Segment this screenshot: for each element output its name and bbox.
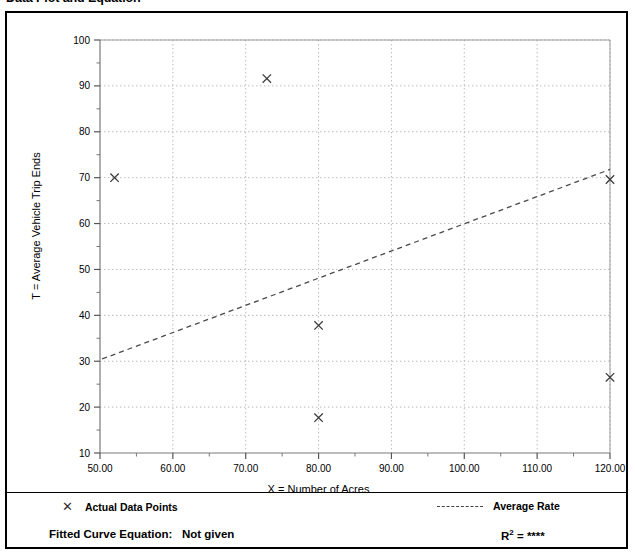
legend-item-average-rate: Average Rate xyxy=(437,500,560,512)
chart-card: 10203040506070809010050.0060.0070.0080.0… xyxy=(5,11,628,549)
fitted-curve-equation-value: Not given xyxy=(182,528,234,540)
fitted-curve-equation-label: Fitted Curve Equation: xyxy=(49,528,172,540)
svg-text:50: 50 xyxy=(79,264,91,275)
y-axis-title: T = Average Vehicle Trip Ends xyxy=(30,96,42,356)
r-squared-exponent: 2 xyxy=(509,528,513,537)
svg-text:70: 70 xyxy=(79,172,91,183)
svg-text:80.00: 80.00 xyxy=(306,463,331,474)
x-marker-icon: ✕ xyxy=(62,500,73,513)
svg-text:70.00: 70.00 xyxy=(233,463,258,474)
svg-text:30: 30 xyxy=(79,356,91,367)
data-point-marker xyxy=(110,173,118,181)
svg-text:100: 100 xyxy=(73,35,90,46)
footer-equation-row: Fitted Curve Equation: Not given R2 = **… xyxy=(7,528,626,552)
data-point-marker xyxy=(263,74,271,82)
r-squared-value: **** xyxy=(527,530,545,542)
scatter-plot-svg: 10203040506070809010050.0060.0070.0080.0… xyxy=(7,13,630,491)
svg-text:40: 40 xyxy=(79,310,91,321)
legend-item-data-points: ✕ Actual Data Points xyxy=(62,500,178,513)
svg-text:100.00: 100.00 xyxy=(449,463,480,474)
svg-text:20: 20 xyxy=(79,402,91,413)
plot-area: 10203040506070809010050.0060.0070.0080.0… xyxy=(7,13,630,491)
svg-text:120.00: 120.00 xyxy=(595,463,626,474)
r-squared-equals: = xyxy=(517,530,524,542)
svg-text:90.00: 90.00 xyxy=(379,463,404,474)
svg-text:60.00: 60.00 xyxy=(160,463,185,474)
svg-text:90: 90 xyxy=(79,80,91,91)
legend-label-data-points: Actual Data Points xyxy=(85,501,178,513)
svg-text:50.00: 50.00 xyxy=(87,463,112,474)
svg-text:10: 10 xyxy=(79,448,91,459)
svg-text:80: 80 xyxy=(79,126,91,137)
svg-text:60: 60 xyxy=(79,218,91,229)
legend-label-average-rate: Average Rate xyxy=(493,500,560,512)
fitted-curve-equation: Fitted Curve Equation: Not given xyxy=(49,528,234,540)
legend: ✕ Actual Data Points Average Rate xyxy=(7,500,626,524)
page-title: Data Plot and Equation xyxy=(6,0,141,5)
x-axis-title: X = Number of Acres xyxy=(7,483,630,495)
svg-text:110.00: 110.00 xyxy=(522,463,552,474)
dashed-line-icon xyxy=(437,506,483,507)
footer-divider xyxy=(7,492,626,493)
chart-page: Data Plot and Equation 10203040506070809… xyxy=(0,0,635,553)
r-squared: R2 = **** xyxy=(501,528,545,542)
